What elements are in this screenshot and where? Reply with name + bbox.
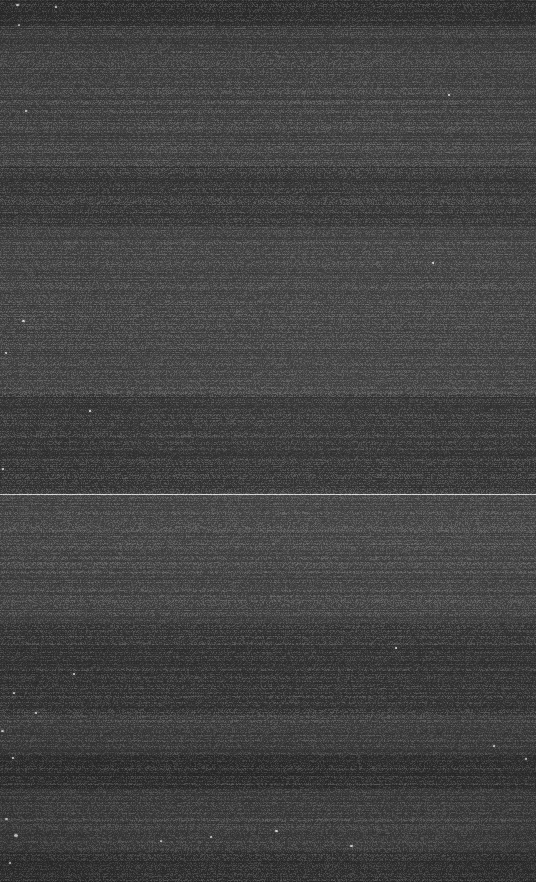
dust-speck: [432, 262, 434, 264]
dust-speck: [525, 758, 527, 760]
dust-speck: [275, 830, 278, 832]
dust-speck: [5, 818, 8, 820]
dust-speck: [493, 745, 495, 747]
dust-speck: [89, 410, 91, 412]
lateral-tone-layer: [0, 0, 536, 882]
dust-speck: [25, 110, 27, 112]
dust-speck: [35, 712, 37, 714]
tonal-band-lower-mid-band: [0, 623, 536, 715]
tonal-band-bottom-field: [0, 789, 536, 851]
dust-speck: [18, 24, 20, 26]
dark-photo-frame: [0, 0, 536, 882]
dust-speck: [14, 834, 18, 837]
dust-speck: [350, 845, 353, 847]
tonal-band-upper-field: [0, 26, 536, 166]
dust-speck: [2, 468, 4, 470]
horizontal-hairline: [0, 494, 536, 495]
coarse-band-texture: [0, 0, 536, 882]
dust-speck: [210, 836, 212, 838]
tonal-band-top-edge-band: [0, 0, 536, 26]
tonal-band-lower-field: [0, 715, 536, 755]
tonal-band-post-hairline-field: [0, 495, 536, 623]
tonal-band-upper-mid-band: [0, 166, 536, 226]
dust-speck: [22, 320, 25, 322]
dust-speck: [395, 647, 397, 649]
dust-speck: [13, 692, 15, 694]
dust-speck: [12, 757, 14, 759]
dust-speck: [5, 352, 7, 354]
dust-speck: [1, 730, 4, 732]
dust-speck: [160, 840, 162, 842]
tonal-band-mid-field: [0, 226, 536, 394]
scanline-texture: [0, 0, 536, 882]
tonal-band-lower-dark-band: [0, 755, 536, 789]
grain-overlay: [0, 0, 536, 882]
dust-speck: [9, 862, 11, 864]
vignette-overlay: [0, 0, 536, 882]
tonal-band-bottom-edge-band: [0, 851, 536, 882]
dust-speck: [73, 673, 75, 675]
base-tone-layer: [0, 0, 536, 882]
dust-speck: [55, 6, 57, 8]
dust-speck: [16, 4, 19, 6]
dust-speck: [448, 94, 450, 96]
tonal-band-pre-hairline-band: [0, 394, 536, 494]
